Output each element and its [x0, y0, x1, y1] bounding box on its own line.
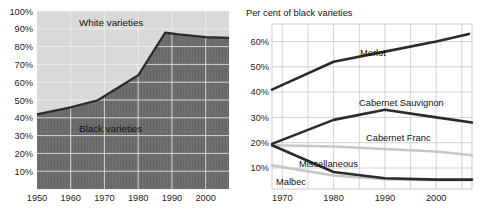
left-ytick-70: 70% — [15, 60, 33, 70]
right-chart-title: Per cent of black varieties — [246, 8, 353, 18]
right-chart-panel: 60% 50% 40% 30% 20% 10% 1970 1980 1990 2… — [240, 0, 480, 215]
right-ytick-60: 60% — [251, 37, 269, 47]
left-chart-panel: 100% 90% 80% 70% 60% 50% 40% 30% 20% 10%… — [0, 0, 240, 215]
left-ytick-50: 50% — [15, 96, 33, 106]
left-ytick-100: 100% — [10, 7, 34, 17]
right-ytick-20: 20% — [251, 138, 269, 148]
two-panel-wine-variety-figure: 100% 90% 80% 70% 60% 50% 40% 30% 20% 10%… — [0, 0, 480, 215]
malbec-label: Malbec — [276, 177, 306, 187]
right-ytick-30: 30% — [251, 113, 269, 123]
right-xtick-1990: 1990 — [375, 193, 395, 203]
left-ytick-90: 90% — [15, 24, 33, 34]
right-ytick-10: 10% — [251, 163, 269, 173]
left-ytick-80: 80% — [15, 42, 33, 52]
left-ytick-60: 60% — [15, 78, 33, 88]
left-ytick-40: 40% — [15, 113, 33, 123]
bottom-white-strip — [0, 208, 480, 215]
black-varieties-label: Black varieties — [79, 123, 142, 134]
right-xtick-1970: 1970 — [272, 193, 292, 203]
left-xtick-1960: 1960 — [60, 193, 80, 203]
left-chart-svg: 100% 90% 80% 70% 60% 50% 40% 30% 20% 10%… — [0, 0, 240, 215]
left-ytick-30: 30% — [15, 131, 33, 141]
white-varieties-label: White varieties — [79, 17, 143, 28]
left-xtick-1970: 1970 — [94, 193, 114, 203]
right-xtick-2000: 2000 — [426, 193, 446, 203]
left-xtick-1950: 1950 — [27, 193, 47, 203]
left-xtick-1980: 1980 — [128, 193, 148, 203]
left-xtick-2000: 2000 — [195, 193, 215, 203]
left-ytick-10: 10% — [15, 167, 33, 177]
right-xtick-1980: 1980 — [323, 193, 343, 203]
merlot-label: Merlot — [360, 48, 386, 58]
cabernet-franc-label: Cabernet Franc — [366, 133, 431, 143]
left-ytick-20: 20% — [15, 149, 33, 159]
miscellaneous-label: Miscellaneous — [299, 159, 358, 169]
right-chart-svg: 60% 50% 40% 30% 20% 10% 1970 1980 1990 2… — [240, 0, 480, 215]
cabernet-sauvignon-label: Cabernet Sauvignon — [359, 98, 444, 108]
right-ytick-40: 40% — [251, 87, 269, 97]
right-ytick-50: 50% — [251, 62, 269, 72]
left-xtick-1990: 1990 — [162, 193, 182, 203]
